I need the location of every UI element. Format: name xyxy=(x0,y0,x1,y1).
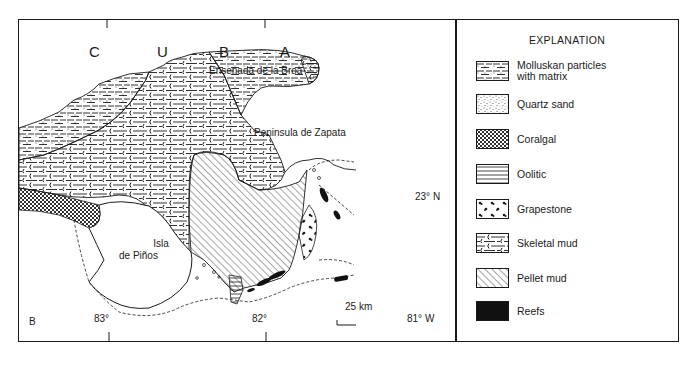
oolitic-swatch-icon xyxy=(476,164,509,184)
reefs-swatch-icon xyxy=(476,301,509,321)
panel-letter: B xyxy=(29,316,36,327)
country-letter-b: B xyxy=(219,43,229,60)
country-letter-u: U xyxy=(157,43,168,60)
legend-label-grapestone: Grapestone xyxy=(517,204,572,215)
longitude-82: 82° xyxy=(252,313,267,324)
legend-label-coralgal: Coralgal xyxy=(517,134,556,145)
map-panel xyxy=(19,20,356,341)
longitude-83: 83° xyxy=(94,313,109,324)
label-de-pinos: de Piños xyxy=(119,250,158,261)
label-peninsula-de-zapata: Peninsula de Zapata xyxy=(254,127,346,138)
quartz-sand-swatch-icon xyxy=(476,94,509,114)
latitude-label: 23° N xyxy=(415,191,440,202)
skeletal-mud-swatch-icon xyxy=(476,233,509,253)
legend-title: EXPLANATION xyxy=(456,34,678,46)
legend-item-grapestone: Grapestone xyxy=(476,199,572,219)
label-ensenada-de-la-broa: Ensenada de la Broa xyxy=(209,65,302,76)
figure-frame: C U B A Ensenada de la Broa Peninsula de… xyxy=(18,19,679,342)
molluskan-swatch-icon xyxy=(476,61,509,81)
legend-item-quartz-sand: Quartz sand xyxy=(476,94,574,114)
label-isla: Isla xyxy=(131,238,191,249)
legend-label-pellet-mud: Pellet mud xyxy=(517,273,567,284)
legend-item-reefs: Reefs xyxy=(476,301,544,321)
legend-item-pellet-mud: Pellet mud xyxy=(476,268,567,288)
pellet-mud-swatch-icon xyxy=(476,268,509,288)
legend-label-oolitic: Oolitic xyxy=(517,169,546,180)
legend-label-quartz-sand: Quartz sand xyxy=(517,99,574,110)
legend-panel: EXPLANATION Molluskan particles with mat… xyxy=(456,20,678,341)
legend-item-coralgal: Coralgal xyxy=(476,129,556,149)
longitude-81w: 81° W xyxy=(407,313,434,324)
country-letter-a: A xyxy=(280,43,290,60)
coralgal-swatch-icon xyxy=(476,129,509,149)
scale-bar-label: 25 km xyxy=(345,301,372,312)
country-letter-c: C xyxy=(89,43,100,60)
legend-label-reefs: Reefs xyxy=(517,306,544,317)
legend-item-molluskan: Molluskan particles with matrix xyxy=(476,60,606,82)
legend-item-skeletal-mud: Skeletal mud xyxy=(476,233,578,253)
legend-item-oolitic: Oolitic xyxy=(476,164,546,184)
grapestone-swatch-icon xyxy=(476,199,509,219)
legend-label-skeletal-mud: Skeletal mud xyxy=(517,238,578,249)
legend-label-molluskan-2: with matrix xyxy=(517,71,606,82)
